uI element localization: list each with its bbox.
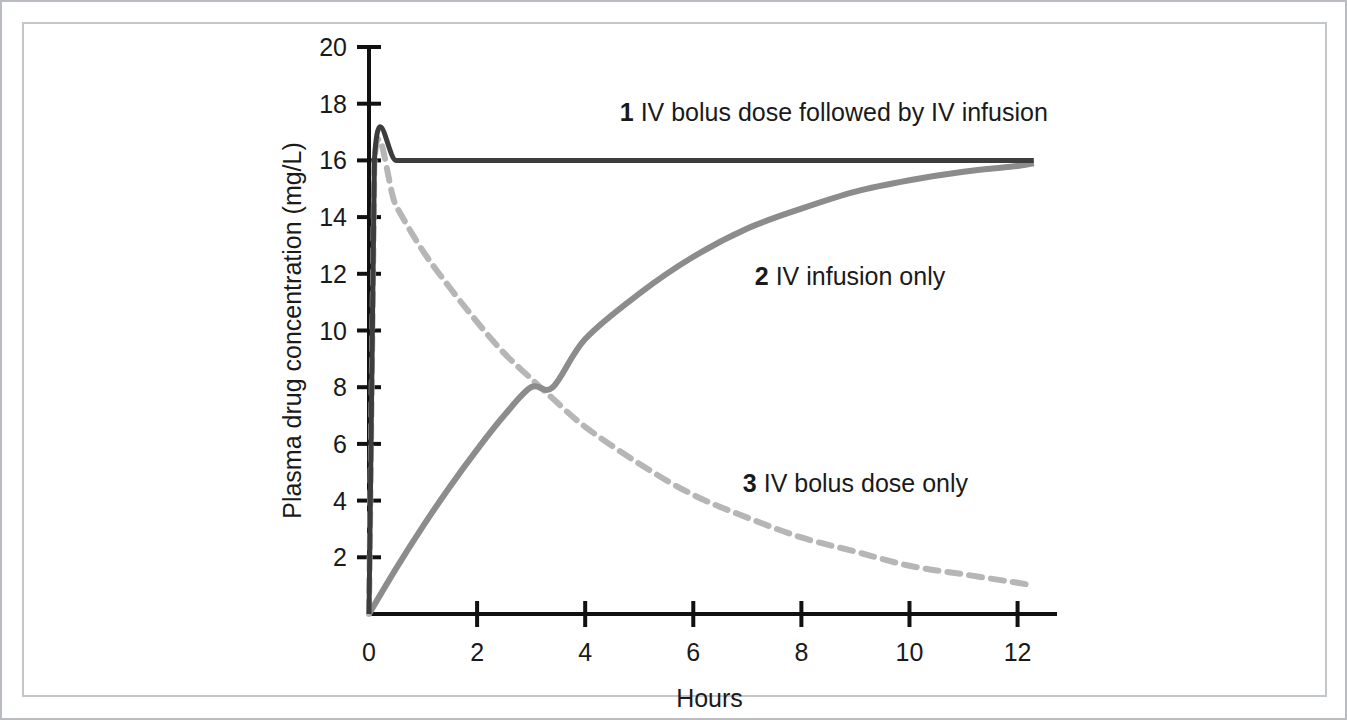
chart-canvas: 2468101214161820024681012Plasma drug con…	[0, 0, 1347, 720]
labels-group: 1 IV bolus dose followed by IV infusion2…	[620, 98, 1048, 497]
y-axis-title: Plasma drug concentration (mg/L)	[278, 142, 306, 519]
series-annotation-number-1: 1	[620, 98, 634, 126]
y-axis-tick-label: 2	[333, 543, 347, 571]
y-axis-tick-label: 6	[333, 430, 347, 458]
series-group	[369, 127, 1034, 614]
y-axis-tick-label: 18	[319, 90, 347, 118]
series-line-2	[369, 163, 1034, 614]
x-axis-tick-label: 10	[896, 638, 924, 666]
x-axis-tick-label: 0	[362, 638, 376, 666]
x-axis-tick-label: 8	[794, 638, 808, 666]
y-axis-tick-label: 16	[319, 146, 347, 174]
series-annotation-2: 2 IV infusion only	[755, 262, 946, 290]
x-axis-tick-label: 6	[686, 638, 700, 666]
series-annotation-text-1: IV bolus dose followed by IV infusion	[634, 98, 1048, 126]
axes-group: 2468101214161820024681012Plasma drug con…	[278, 33, 1057, 712]
series-annotation-3: 3 IV bolus dose only	[743, 469, 969, 497]
y-axis-tick-label: 12	[319, 260, 347, 288]
y-axis-tick-label: 20	[319, 33, 347, 61]
series-annotation-1: 1 IV bolus dose followed by IV infusion	[620, 98, 1048, 126]
x-axis-tick-label: 12	[1004, 638, 1032, 666]
pharmacokinetics-chart: 2468101214161820024681012Plasma drug con…	[0, 0, 1347, 720]
series-annotation-text-3: IV bolus dose only	[757, 469, 969, 497]
series-line-1	[369, 127, 1034, 614]
y-axis-tick-label: 8	[333, 373, 347, 401]
series-line-3	[369, 139, 1034, 614]
x-axis-tick-label: 4	[578, 638, 592, 666]
y-axis-tick-label: 4	[333, 487, 347, 515]
x-axis-title: Hours	[676, 684, 743, 712]
series-annotation-number-3: 3	[743, 469, 757, 497]
series-annotation-number-2: 2	[755, 262, 769, 290]
x-axis-tick-label: 2	[470, 638, 484, 666]
series-annotation-text-2: IV infusion only	[769, 262, 946, 290]
y-axis-tick-label: 14	[319, 203, 347, 231]
y-axis-tick-label: 10	[319, 317, 347, 345]
